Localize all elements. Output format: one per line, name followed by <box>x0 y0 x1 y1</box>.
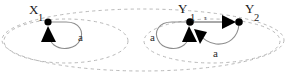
node-x1[interactable] <box>44 18 51 25</box>
arrowhead-y1-self-loop <box>182 26 197 42</box>
edge-label-y1-to-y2-tau: τ <box>204 14 207 22</box>
state-label-x1-subscript: 1 <box>38 12 43 23</box>
lts-diagram: X 1 Y 1 Y 2 a a τ a <box>0 0 287 75</box>
state-label-y1-subscript: 1 <box>190 12 195 23</box>
edge-label-y2-to-y1-a: a <box>213 47 218 59</box>
edge-label-x1-self-a: a <box>78 31 83 43</box>
state-label-y2-subscript: 2 <box>254 12 259 23</box>
region-right-ellipse <box>144 19 280 63</box>
node-y2[interactable] <box>235 18 243 26</box>
state-label-y1-base: Y <box>178 1 188 16</box>
arrowhead-y1-to-y2-tau <box>222 15 236 29</box>
edge-x1-self-loop <box>48 22 81 48</box>
edge-label-y1-self-a: a <box>150 31 155 43</box>
lts-canvas: X 1 Y 1 Y 2 a a τ a <box>0 0 287 75</box>
arrowhead-x1-self-loop <box>41 26 56 42</box>
edge-group <box>48 22 239 48</box>
